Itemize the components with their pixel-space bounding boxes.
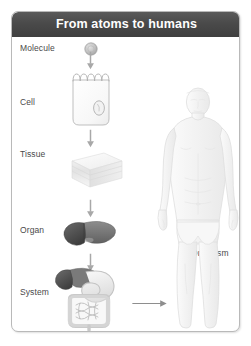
card-title-bar: From atoms to humans	[12, 12, 240, 37]
stage-label-cell: Cell	[20, 97, 35, 107]
stage-label-organ: Organ	[20, 225, 44, 235]
stage-label-molecule: Molecule	[20, 43, 55, 53]
card-title: From atoms to humans	[12, 12, 240, 37]
liver-organ-icon	[56, 215, 122, 253]
digestive-system-icon	[50, 265, 132, 331]
human-body-icon	[155, 86, 240, 329]
stage-label-tissue: Tissue	[20, 149, 45, 159]
cell-icon	[62, 70, 120, 132]
stage-label-system: System	[20, 287, 49, 297]
arrow-down-icon	[84, 50, 97, 72]
tissue-slab-icon	[58, 147, 126, 195]
diagram-card: From atoms to humans Molecule Cell Tissu…	[11, 11, 240, 332]
